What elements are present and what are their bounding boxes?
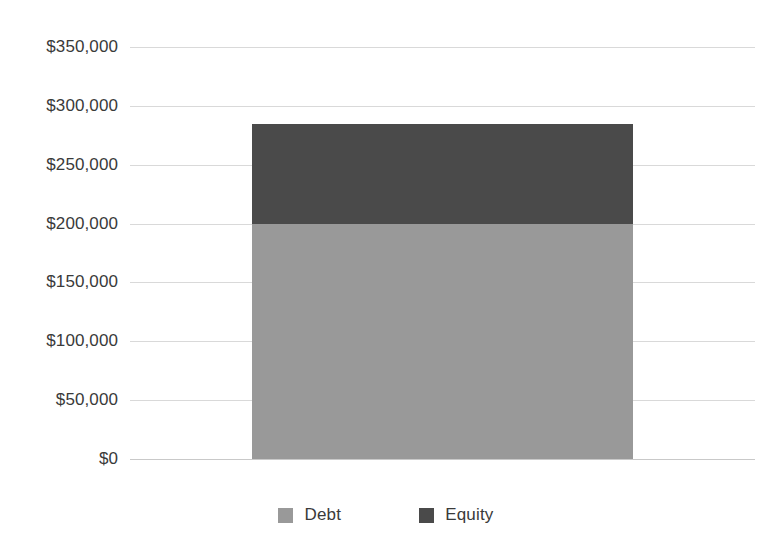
y-axis: $350,000$300,000$250,000$200,000$150,000… <box>0 47 118 459</box>
legend-swatch-icon <box>278 508 293 523</box>
y-axis-tick-label: $100,000 <box>6 331 118 351</box>
chart-container: $350,000$300,000$250,000$200,000$150,000… <box>0 0 772 560</box>
legend-label: Equity <box>445 505 493 525</box>
bar-stacked-capital-structure[interactable] <box>252 124 633 459</box>
bar-segment-debt[interactable] <box>252 224 633 459</box>
bar-segment-equity[interactable] <box>252 124 633 224</box>
gridline <box>130 459 755 460</box>
legend-item-debt[interactable]: Debt <box>278 505 341 525</box>
y-axis-tick-label: $200,000 <box>6 214 118 234</box>
gridline <box>130 106 755 107</box>
plot-area <box>130 47 755 459</box>
legend-item-equity[interactable]: Equity <box>419 505 493 525</box>
chart-title <box>0 0 772 3</box>
y-axis-tick-label: $150,000 <box>6 272 118 292</box>
chart-legend: DebtEquity <box>0 505 772 525</box>
legend-label: Debt <box>304 505 341 525</box>
y-axis-tick-label: $300,000 <box>6 96 118 116</box>
y-axis-tick-label: $350,000 <box>6 37 118 57</box>
legend-swatch-icon <box>419 508 434 523</box>
y-axis-tick-label: $50,000 <box>6 390 118 410</box>
gridline <box>130 47 755 48</box>
y-axis-tick-label: $250,000 <box>6 155 118 175</box>
y-axis-tick-label: $0 <box>6 449 118 469</box>
